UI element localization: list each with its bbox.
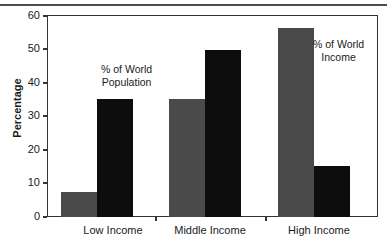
- chart-figure: Percentage 60 50 40 30 20 10 0 % of Worl…: [0, 0, 387, 244]
- bar-low-income-share: [61, 192, 97, 217]
- x-tick-label-middle-income: Middle Income: [157, 224, 263, 237]
- annotation-income-line-2: Income: [313, 51, 364, 64]
- y-tick-label-0: 0: [16, 211, 40, 222]
- bar-high-income-population: [314, 166, 350, 217]
- figure-top-rule: [0, 4, 387, 6]
- y-tick-label-20: 20: [16, 144, 40, 155]
- y-tick-label-30: 30: [16, 110, 40, 121]
- y-tick-label-40: 40: [16, 77, 40, 88]
- y-tick-label-60: 60: [16, 10, 40, 21]
- bar-high-income-share: [278, 28, 314, 217]
- plot-area: % of World Population % of World Income: [47, 15, 378, 217]
- bar-middle-income-population: [205, 50, 241, 218]
- bar-middle-income-share: [169, 99, 205, 217]
- annotation-population-line-2: Population: [101, 76, 152, 89]
- annotation-income-line-1: % of World: [313, 38, 364, 51]
- annotation-world-income: % of World Income: [313, 38, 364, 63]
- y-tick-label-50: 50: [16, 43, 40, 54]
- x-tick-mark-1: [155, 217, 157, 221]
- x-tick-label-high-income: High Income: [266, 224, 372, 237]
- x-tick-mark-2: [265, 217, 267, 221]
- x-tick-label-low-income: Low Income: [60, 224, 166, 237]
- y-tick-label-10: 10: [16, 177, 40, 188]
- annotation-world-population: % of World Population: [101, 63, 152, 88]
- bar-low-income-population: [97, 99, 133, 217]
- annotation-population-line-1: % of World: [101, 63, 152, 76]
